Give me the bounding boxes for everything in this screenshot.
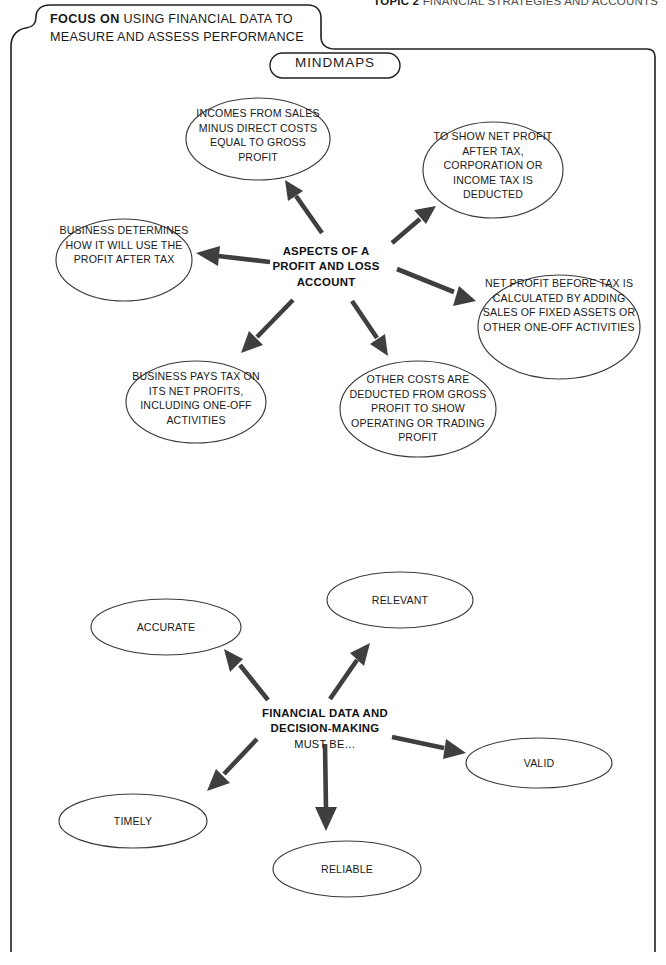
focus-on-prefix: FOCUS ON xyxy=(50,12,120,26)
section-badge-label[interactable]: MINDMAPS xyxy=(270,55,400,70)
node-label-relevant: RELEVANT xyxy=(340,593,460,608)
mindmap-center-profit-and-loss: ASPECTS OF A PROFIT AND LOSS ACCOUNT xyxy=(268,244,384,290)
node-label-reliable: RELIABLE xyxy=(287,862,407,877)
focus-on-label: FOCUS ON USING FINANCIAL DATA TO MEASURE… xyxy=(50,10,322,46)
center-title: FINANCIAL DATA AND DECISION-MAKING xyxy=(262,707,388,734)
node-label-valid: VALID xyxy=(479,756,599,771)
node-label-other-costs-deducted: OTHER COSTS ARE DEDUCTED FROM GROSS PROF… xyxy=(347,372,489,445)
mindmap-page: TOPIC 2 FINANCIAL STRATEGIES AND ACCOUNT… xyxy=(0,0,666,965)
node-label-incomes-from-sales: INCOMES FROM SALES MINUS DIRECT COSTS EQ… xyxy=(190,106,326,164)
node-label-timely: TIMELY xyxy=(73,814,193,829)
node-label-business-pays-tax: BUSINESS PAYS TAX ON ITS NET PROFITS, IN… xyxy=(129,369,263,427)
mindmap-center-financial-data: FINANCIAL DATA AND DECISION-MAKING MUST … xyxy=(232,706,418,752)
node-label-net-profit-before-tax: NET PROFIT BEFORE TAX IS CALCULATED BY A… xyxy=(482,276,636,334)
node-label-accurate: ACCURATE xyxy=(106,620,226,635)
node-label-to-show-net-profit: TO SHOW NET PROFIT AFTER TAX, CORPORATIO… xyxy=(430,129,556,202)
center-subtitle: MUST BE… xyxy=(232,737,418,752)
node-label-business-determines: BUSINESS DETERMINES HOW IT WILL USE THE … xyxy=(57,223,191,267)
